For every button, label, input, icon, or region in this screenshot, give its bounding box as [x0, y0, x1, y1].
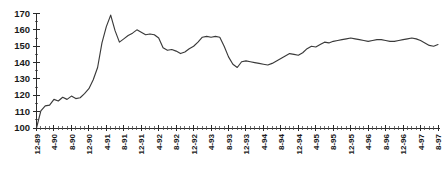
y-axis-tick-labels: 100110120130140150160170	[14, 8, 30, 134]
x-tick-label: 8-95	[329, 133, 338, 150]
x-tick-label: 12-93	[242, 133, 251, 154]
y-tick-label: 140	[14, 57, 30, 68]
x-tick-label: 12-90	[85, 133, 94, 154]
y-tick-label: 120	[14, 89, 30, 100]
chart-canvas: 100110120130140150160170 12-894-908-9012…	[0, 0, 444, 183]
line-chart: 100110120130140150160170 12-894-908-9012…	[0, 0, 444, 183]
x-tick-label: 4-92	[155, 133, 164, 150]
data-series-line	[37, 15, 439, 128]
y-tick-label: 100	[14, 122, 30, 133]
y-tick-label: 160	[14, 24, 30, 35]
x-tick-label: 8-96	[382, 133, 391, 150]
y-tick-label: 130	[14, 73, 30, 84]
x-tick-label: 4-91	[103, 133, 112, 150]
x-tick-label: 12-92	[190, 133, 199, 154]
x-tick-label: 8-94	[277, 133, 286, 150]
x-tick-label: 4-94	[260, 133, 269, 150]
x-tick-label: 4-96	[364, 133, 373, 150]
y-tick-label: 150	[14, 40, 30, 51]
x-tick-label: 8-92	[172, 133, 181, 150]
x-tick-label: 12-89	[33, 133, 42, 154]
x-tick-label: 8-90	[68, 133, 77, 150]
x-tick-label: 12-94	[295, 133, 304, 154]
x-tick-label: 12-91	[137, 133, 146, 154]
x-tick-label: 4-95	[312, 133, 321, 150]
x-tick-label: 4-93	[207, 133, 216, 150]
x-tick-label: 4-97	[417, 133, 426, 150]
x-tick-label: 12-95	[347, 133, 356, 154]
x-tick-label: 8-97	[434, 133, 443, 150]
x-tick-label: 8-93	[225, 133, 234, 150]
y-tick-label: 110	[15, 106, 30, 117]
x-axis-tick-labels: 12-894-908-9012-904-918-9112-914-928-921…	[33, 133, 444, 154]
x-tick-label: 8-91	[120, 133, 129, 150]
x-tick-label: 4-90	[50, 133, 59, 150]
x-tick-label: 12-96	[399, 133, 408, 154]
y-tick-label: 170	[14, 8, 30, 19]
